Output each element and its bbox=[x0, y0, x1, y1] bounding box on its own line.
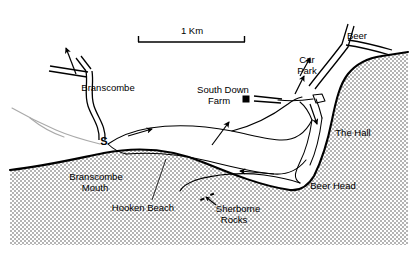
sea-area bbox=[10, 52, 408, 245]
undercliff-upper-edge bbox=[108, 120, 312, 144]
label-beer: Beer bbox=[347, 30, 367, 41]
label-the-hall: The Hall bbox=[335, 127, 370, 138]
branscombe-stream bbox=[12, 108, 100, 144]
beer-branch-road-upper-casing bbox=[348, 40, 392, 50]
label-sherborne-rocks-line1: Sherborne bbox=[216, 203, 260, 214]
label-sherborne-rocks-line2: Rocks bbox=[221, 214, 248, 225]
label-south-down-farm-line1: South Down bbox=[197, 84, 249, 95]
beer-road-arrow-lower bbox=[295, 76, 304, 94]
south-down-farm-marker bbox=[243, 96, 250, 103]
label-hooken-beach: Hooken Beach bbox=[112, 202, 174, 213]
beer-branch-road-lower-casing bbox=[346, 45, 390, 55]
slipway-marker-label: S bbox=[100, 135, 107, 147]
stream-group bbox=[12, 108, 100, 144]
beer-head-inner-edge bbox=[295, 120, 312, 183]
farm-track-upper-casing bbox=[254, 96, 282, 99]
label-car-park-line1: Car bbox=[299, 54, 314, 65]
map-figure: 1 Km S Branscombe South Down Farm Car Pa… bbox=[0, 0, 418, 258]
sea-fill bbox=[10, 52, 408, 245]
label-car-park-line2: Park bbox=[297, 65, 317, 76]
beer-head-outer-edge bbox=[310, 118, 322, 165]
branscombe-west-road-lower-casing bbox=[49, 71, 87, 77]
south-down-farm-arrow bbox=[212, 122, 229, 145]
map-canvas: 1 Km S Branscombe South Down Farm Car Pa… bbox=[0, 0, 418, 258]
label-branscombe: Branscombe bbox=[81, 82, 134, 93]
scale-bar-label: 1 Km bbox=[181, 25, 203, 36]
label-south-down-farm-line2: Farm bbox=[208, 95, 230, 106]
north-arrow bbox=[66, 48, 76, 74]
label-branscombe-mouth-line1: Branscombe bbox=[69, 171, 122, 182]
label-beer-head: Beer Head bbox=[310, 180, 355, 191]
label-branscombe-mouth-line2: Mouth bbox=[82, 182, 108, 193]
scale-bar: 1 Km bbox=[138, 25, 245, 42]
car-park-outline bbox=[313, 94, 325, 103]
farm-track-lower-casing bbox=[254, 101, 281, 103]
